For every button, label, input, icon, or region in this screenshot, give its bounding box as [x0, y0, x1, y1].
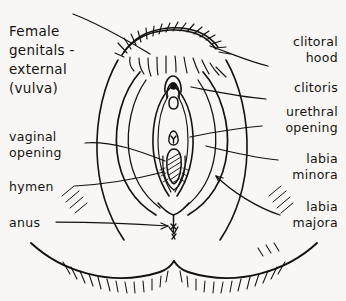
leader-labia-minora: [206, 146, 278, 160]
label-clitoral-hood: clitoral hood: [293, 34, 338, 65]
clitoris: [169, 83, 178, 109]
label-hymen: hymen: [9, 179, 54, 195]
leader-hymen: [75, 172, 164, 186]
label-anus: anus: [9, 215, 40, 231]
label-vaginal-opening: vaginal opening: [9, 129, 62, 160]
perineum: [158, 203, 189, 221]
label-labia-majora: labia majora: [292, 199, 338, 230]
thigh-hatching: [62, 186, 293, 213]
leader-clitoral-hood: [210, 46, 268, 66]
buttocks-hatching: [63, 243, 285, 293]
label-labia-minora: labia minora: [292, 151, 338, 182]
anus: [169, 221, 178, 239]
urethral-opening: [169, 131, 178, 145]
leader-anus: [56, 222, 168, 226]
leader-labia-majora: [216, 176, 280, 215]
leader-clitoris: [191, 87, 266, 99]
label-urethral-opening: urethral opening: [285, 104, 338, 135]
leader-lines: [56, 14, 280, 229]
figure-title: Female genitals - external (vulva): [9, 22, 75, 98]
pubic-hair: [122, 28, 218, 55]
labia-majora: [116, 72, 227, 215]
figure-canvas: Female genitals - external (vulva) vagin…: [0, 0, 346, 301]
label-clitoris: clitoris: [294, 80, 338, 96]
